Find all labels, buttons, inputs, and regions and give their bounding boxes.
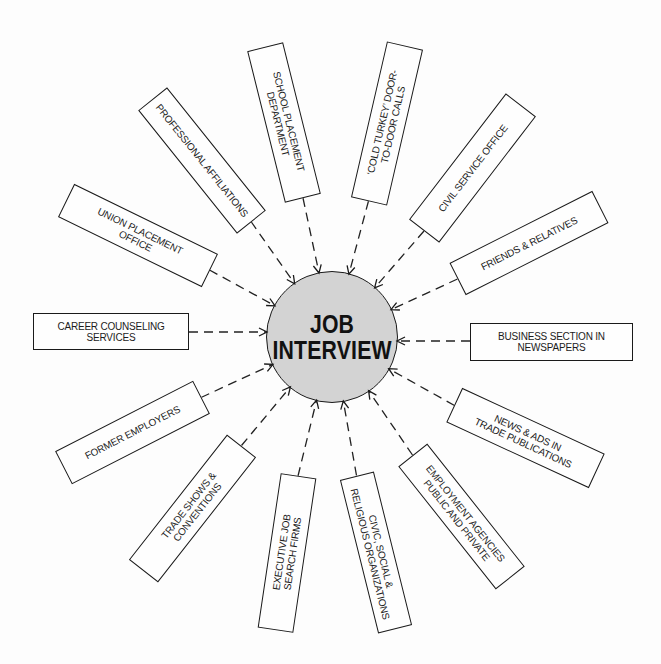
dashed-line	[298, 400, 317, 476]
dashed-line	[375, 231, 424, 288]
dashed-line	[391, 279, 458, 310]
node-label-line: SERVICES	[87, 332, 136, 343]
connector-school-placement	[303, 198, 321, 273]
arrowhead-icon	[287, 275, 295, 284]
node-label-line: CAREER COUNSELING	[57, 321, 164, 332]
connector-former-employers	[201, 364, 273, 398]
arrowhead-icon	[311, 400, 319, 409]
dashed-line	[343, 401, 356, 476]
node-career-counseling: CAREER COUNSELING SERVICES	[33, 313, 189, 350]
dashed-line	[251, 222, 295, 284]
connector-career-counseling	[189, 328, 267, 336]
connector-executive-search	[298, 400, 319, 476]
arrowhead-icon	[313, 264, 321, 273]
arrowhead-icon	[259, 328, 267, 336]
dashed-line	[201, 364, 273, 397]
node-label-line: BUSINESS SECTION IN	[498, 331, 605, 342]
dashed-line	[389, 369, 455, 406]
dashed-line	[349, 201, 369, 274]
node-label-line: NEWSPAPERS	[518, 342, 586, 353]
diagram-canvas: JOB INTERVIEW	[0, 0, 661, 664]
connector-union-placement	[210, 270, 276, 306]
connector-business-section	[397, 337, 470, 345]
dashed-line	[369, 391, 413, 455]
connector-cold-turkey	[347, 201, 368, 274]
dashed-line	[242, 387, 291, 446]
dashed-line	[303, 198, 319, 273]
arrowhead-icon	[369, 391, 377, 400]
connector-professional-affiliations	[251, 222, 295, 284]
arrowhead-icon	[264, 364, 273, 371]
connector-civic-organizations	[341, 401, 357, 476]
connector-trade-shows	[242, 387, 291, 446]
connector-news-ads	[389, 369, 455, 406]
connector-civil-service	[375, 231, 424, 288]
connector-friends-relatives	[391, 279, 458, 310]
dashed-line	[210, 270, 276, 306]
connector-employment-agencies	[369, 391, 413, 455]
node-business-section: BUSINESS SECTION IN NEWSPAPERS	[470, 323, 633, 361]
